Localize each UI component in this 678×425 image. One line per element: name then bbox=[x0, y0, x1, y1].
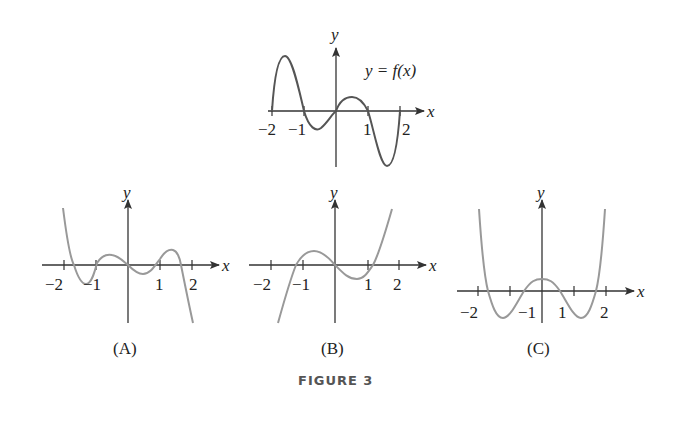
graph-a: y x −2 −1 1 2 (A) bbox=[42, 183, 230, 358]
tick-label-neg2: −2 bbox=[253, 275, 271, 294]
tick-label-2: 2 bbox=[189, 275, 198, 294]
y-axis-label: y bbox=[329, 25, 339, 44]
figure-3: y x −2 −1 1 2 y = f(x) y x −2 −1 1 2 (A) bbox=[0, 0, 678, 425]
tick-label-1: 1 bbox=[363, 120, 372, 139]
tick-label-1: 1 bbox=[558, 303, 567, 322]
function-label: y = f(x) bbox=[363, 61, 416, 80]
tick-label-1: 1 bbox=[155, 275, 164, 294]
tick-label-2: 2 bbox=[600, 303, 609, 322]
tick-label-2: 2 bbox=[393, 275, 402, 294]
y-axis-label: y bbox=[535, 183, 545, 202]
tick-label-1: 1 bbox=[364, 275, 373, 294]
tick-label-neg1: −1 bbox=[83, 275, 101, 294]
y-axis-label: y bbox=[121, 183, 131, 202]
x-axis-label: x bbox=[428, 256, 437, 275]
caption-b: (B) bbox=[321, 339, 344, 358]
tick-label-neg1: −1 bbox=[292, 275, 310, 294]
figure-caption: FIGURE 3 bbox=[298, 373, 373, 388]
tick-label-neg1: −1 bbox=[288, 120, 306, 139]
tick-label-neg2: −2 bbox=[460, 303, 478, 322]
tick-label-neg1: −1 bbox=[518, 303, 536, 322]
tick-label-2: 2 bbox=[402, 120, 411, 139]
x-axis-label: x bbox=[221, 256, 230, 275]
y-axis-label: y bbox=[328, 183, 338, 202]
tick-label-neg2: −2 bbox=[258, 120, 276, 139]
x-axis-label: x bbox=[426, 102, 435, 121]
graph-f: y x −2 −1 1 2 y = f(x) bbox=[258, 25, 435, 167]
caption-a: (A) bbox=[113, 339, 137, 358]
caption-c: (C) bbox=[527, 339, 550, 358]
graph-b: y −2 −1 1 2 x (B) bbox=[249, 183, 437, 358]
x-axis-label: x bbox=[636, 282, 645, 301]
tick-label-neg2: −2 bbox=[45, 275, 63, 294]
graph-c: y x −2 −1 1 2 (C) bbox=[457, 183, 645, 358]
